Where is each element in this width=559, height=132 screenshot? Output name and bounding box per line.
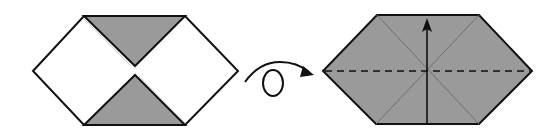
step-after [323,15,532,124]
diagram-canvas [0,0,559,132]
step-before [33,16,238,125]
turn-over-arrow-icon [245,62,314,96]
origami-diagram [0,0,559,132]
